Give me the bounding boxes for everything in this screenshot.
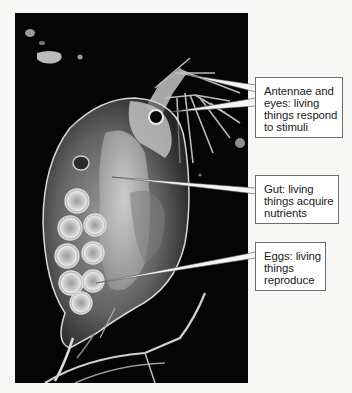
callout-line: things respond <box>264 109 336 121</box>
callout-eggs: Eggs: living things reproduce <box>255 242 326 291</box>
daphnia-photo <box>15 13 248 383</box>
callout-antennae-eyes: Antennae and eyes: living things respond… <box>255 77 343 138</box>
callout-line: Eggs: living <box>264 250 319 262</box>
callout-line: eyes: living <box>264 97 336 109</box>
callout-line: things acquire <box>264 195 332 207</box>
callout-gut: Gut: living things acquire nutrients <box>255 175 339 224</box>
daphnia-illustration <box>15 13 248 383</box>
callout-line: Antennae and <box>264 85 336 97</box>
callout-line: nutrients <box>264 207 332 219</box>
callout-line: Gut: living <box>264 183 332 195</box>
callout-line: things <box>264 262 319 274</box>
callout-line: reproduce <box>264 274 319 286</box>
callout-line: to stimuli <box>264 121 336 133</box>
labeled-figure: Antennae and eyes: living things respond… <box>0 0 352 393</box>
